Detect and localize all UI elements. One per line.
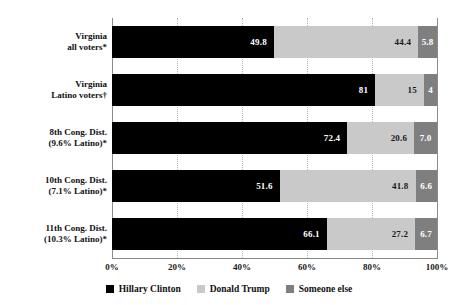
category-label: 8th Cong. Dist. (9.6% Latino)* — [3, 127, 107, 149]
legend-item[interactable]: Donald Trump — [197, 284, 270, 294]
bar-value-label: 72.4 — [324, 133, 348, 143]
chart-legend: Hillary ClintonDonald TrumpSomeone else — [0, 284, 458, 294]
bar-row: 51.641.86.6 — [112, 170, 437, 202]
category-label: 11th Cong. Dist. (10.3% Latino)* — [3, 223, 107, 245]
bar-value-label: 4 — [426, 85, 435, 95]
legend-label: Someone else — [299, 284, 353, 294]
category-label: Virginia all voters* — [3, 31, 107, 53]
x-axis-line — [112, 258, 438, 259]
plot-area: 49.844.45.88115472.420.67.051.641.86.666… — [112, 18, 437, 258]
bar-segment-trump: 15 — [375, 74, 424, 106]
legend-swatch-icon — [106, 285, 114, 293]
bar-value-label: 49.8 — [250, 37, 274, 47]
gridline-100 — [437, 18, 438, 258]
bar-segment-trump: 41.8 — [280, 170, 416, 202]
bar-value-label: 15 — [408, 85, 424, 95]
legend-item[interactable]: Hillary Clinton — [106, 284, 181, 294]
bar-value-label: 44.4 — [395, 37, 419, 47]
bar-segment-other: 7.0 — [414, 122, 437, 154]
bar-segment-clinton: 51.6 — [112, 170, 280, 202]
legend-item[interactable]: Someone else — [286, 284, 353, 294]
bar-value-label: 41.8 — [392, 181, 416, 191]
bar-segment-other: 6.6 — [416, 170, 437, 202]
legend-label: Donald Trump — [210, 284, 270, 294]
bar-value-label: 6.7 — [418, 229, 434, 239]
x-tick-label: 80% — [363, 262, 381, 272]
x-tick-label: 60% — [298, 262, 316, 272]
bar-value-label: 5.8 — [420, 37, 436, 47]
bar-segment-clinton: 49.8 — [112, 26, 274, 58]
bar-segment-clinton: 72.4 — [112, 122, 347, 154]
bar-segment-trump: 44.4 — [274, 26, 418, 58]
bar-segment-clinton: 66.1 — [112, 218, 327, 250]
bar-value-label: 7.0 — [418, 133, 434, 143]
category-label: Virginia Latino voters† — [3, 79, 107, 101]
bar-row: 66.127.26.7 — [112, 218, 437, 250]
bar-row: 81154 — [112, 74, 437, 106]
x-tick-label: 100% — [426, 262, 449, 272]
x-tick-label: 0% — [105, 262, 119, 272]
legend-swatch-icon — [286, 285, 294, 293]
bar-segment-other: 6.7 — [415, 218, 437, 250]
bar-segment-other: 5.8 — [418, 26, 437, 58]
bar-value-label: 20.6 — [391, 133, 415, 143]
bar-value-label: 6.6 — [418, 181, 434, 191]
bar-row: 72.420.67.0 — [112, 122, 437, 154]
x-tick-label: 40% — [233, 262, 251, 272]
bar-segment-other: 4 — [424, 74, 437, 106]
x-tick-label: 20% — [168, 262, 186, 272]
bar-value-label: 27.2 — [392, 229, 416, 239]
category-label: 10th Cong. Dist. (7.1% Latino)* — [3, 175, 107, 197]
bar-value-label: 66.1 — [303, 229, 327, 239]
bar-segment-trump: 27.2 — [327, 218, 415, 250]
legend-swatch-icon — [197, 285, 205, 293]
legend-label: Hillary Clinton — [119, 284, 181, 294]
bar-row: 49.844.45.8 — [112, 26, 437, 58]
bar-value-label: 51.6 — [256, 181, 280, 191]
stacked-bar-chart: 49.844.45.88115472.420.67.051.641.86.666… — [0, 0, 458, 305]
bar-segment-clinton: 81 — [112, 74, 375, 106]
bar-segment-trump: 20.6 — [347, 122, 414, 154]
bar-value-label: 81 — [359, 85, 375, 95]
